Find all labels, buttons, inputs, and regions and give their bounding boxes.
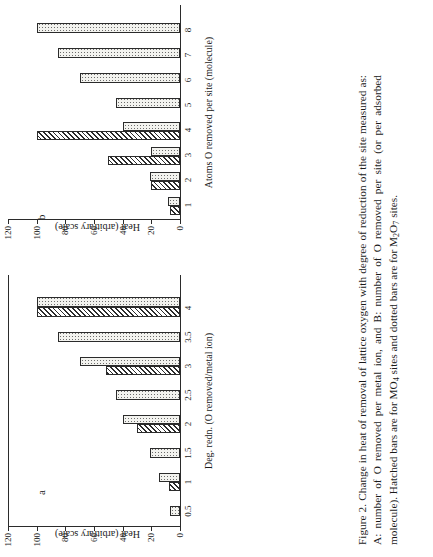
figure-caption-text: Change in heat of removal of lattice oxy… [356, 75, 399, 545]
panel-b-tick-0 [180, 219, 181, 224]
panel-a-cat-1-5: 1.5 [184, 443, 193, 463]
panel-a-bar-dotted-1-5 [150, 448, 180, 458]
panel-b-bar-hatched-2 [151, 181, 180, 190]
panel-a-bar-hatched-2 [137, 424, 180, 433]
panel-a-ticklabel-40: 40 [119, 533, 128, 551]
panel-a-ticklabel-20: 20 [147, 533, 156, 551]
panel-a-cat-3-5: 3.5 [184, 327, 193, 347]
panel-a-tick-60 [94, 526, 95, 531]
panel-a-bar-dotted-2 [123, 415, 180, 424]
panel-a-cat-2: 2 [184, 414, 193, 434]
panel-a-bar-dotted-1 [159, 473, 180, 482]
panel-b-cat-6: 6 [184, 73, 193, 87]
panel-a-x-axis-title: Deg. redn. (O removed/metal ion) [203, 275, 214, 527]
panel-a: Heat (arbitrary scale) a 0 20 40 60 80 [0, 270, 228, 557]
panel-a-cat-3: 3 [184, 356, 193, 376]
panel-b-tick-60 [94, 219, 95, 224]
panel-b: Heat (arbitrary scale) b 0 20 [0, 0, 228, 250]
panel-b-bar-dotted-8 [37, 23, 180, 33]
panel-b-bar-dotted-3 [151, 147, 180, 156]
panel-b-x-axis-title: Atoms O removed per site (molecule) [203, 5, 214, 220]
panel-a-plot-area: 0 20 40 60 80 100 120 0.5 1 1.5 2 2.5 3 … [0, 270, 228, 557]
panel-b-tick-40 [123, 219, 124, 224]
panel-b-tick-80 [65, 219, 66, 224]
panel-b-bar-hatched-4 [37, 131, 180, 140]
panel-a-bar-hatched-1 [169, 482, 180, 491]
panel-b-cat-1: 1 [184, 198, 193, 212]
panel-a-bar-hatched-3 [106, 366, 180, 375]
panel-a-cat-2-5: 2.5 [184, 385, 193, 405]
panel-b-category-axis [180, 5, 181, 220]
panel-b-bar-hatched-1 [170, 206, 180, 215]
panel-a-bar-dotted-2-5 [116, 390, 180, 400]
panel-a-ticklabel-0: 0 [176, 533, 185, 551]
panel-a-tick-100 [37, 526, 38, 531]
panel-b-ticklabel-120: 120 [4, 226, 13, 244]
panel-b-ticklabel-20: 20 [147, 226, 156, 244]
panel-b-ticklabel-100: 100 [33, 226, 42, 244]
panel-b-tick-120 [8, 219, 9, 224]
panel-a-cat-0-5: 0.5 [184, 501, 193, 521]
panel-a-tick-20 [151, 526, 152, 531]
panel-b-bar-hatched-3 [108, 156, 180, 165]
panel-a-tick-120 [8, 526, 9, 531]
panel-a-tick-0 [180, 526, 181, 531]
panel-b-bar-dotted-7 [58, 48, 180, 58]
panel-b-bar-dotted-4 [123, 122, 180, 131]
panel-b-tick-20 [151, 219, 152, 224]
panel-b-cat-2: 2 [184, 173, 193, 187]
panel-b-cat-5: 5 [184, 98, 193, 112]
panel-b-cat-3: 3 [184, 148, 193, 162]
panel-a-tick-40 [123, 526, 124, 531]
panel-b-bar-dotted-5 [116, 98, 180, 108]
panel-b-plot-area: 0 20 40 60 80 100 120 1 2 3 4 5 6 7 8 At… [0, 0, 228, 250]
panel-b-ticklabel-40: 40 [119, 226, 128, 244]
panel-a-bar-dotted-0-5 [170, 506, 180, 516]
panel-b-bar-dotted-6 [80, 73, 180, 83]
panel-a-ticklabel-100: 100 [33, 533, 42, 551]
figure-page: Heat (arbitrary scale) b 0 20 [0, 0, 433, 557]
panel-a-bar-dotted-3 [80, 357, 180, 366]
panel-b-ticklabel-0: 0 [176, 226, 185, 244]
panel-a-top-frame [8, 275, 9, 527]
panel-b-cat-4: 4 [184, 123, 193, 137]
panel-a-cat-4: 4 [184, 298, 193, 318]
panel-b-bar-dotted-2 [150, 172, 180, 181]
panel-a-ticklabel-120: 120 [4, 533, 13, 551]
panel-a-ticklabel-80: 80 [61, 533, 70, 551]
panel-a-ticklabel-60: 60 [90, 533, 99, 551]
panel-b-bar-dotted-1 [168, 197, 180, 206]
figure-caption-block: Figure 2. Change in heat of removal of l… [355, 75, 427, 545]
figure-caption: Figure 2. Change in heat of removal of l… [355, 75, 404, 545]
panel-a-cat-1: 1 [184, 472, 193, 492]
panel-a-bar-dotted-4 [37, 297, 180, 307]
figure-label: Figure 2. [356, 504, 368, 545]
panel-b-tick-100 [37, 219, 38, 224]
panel-b-ticklabel-60: 60 [90, 226, 99, 244]
panel-a-bar-dotted-3-5 [58, 332, 180, 342]
panel-b-cat-8: 8 [184, 23, 193, 37]
panel-a-tick-80 [65, 526, 66, 531]
panel-a-bar-hatched-4 [37, 307, 180, 317]
panel-b-ticklabel-80: 80 [61, 226, 70, 244]
panel-a-category-axis [180, 275, 181, 527]
panel-b-cat-7: 7 [184, 48, 193, 62]
